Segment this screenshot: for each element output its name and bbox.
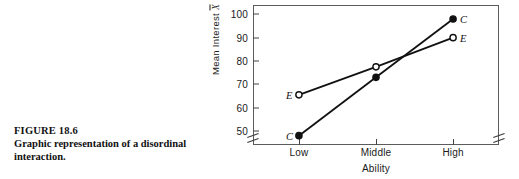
y-tick-label: 60 — [236, 102, 248, 113]
figure-number: FIGURE 18.6 — [14, 124, 204, 137]
data-point-C — [450, 16, 456, 22]
data-point-C — [373, 74, 379, 80]
figure-page: FIGURE 18.6 Graphic representation of a … — [0, 0, 519, 179]
y-axis-break-icon-right — [493, 131, 505, 145]
data-point-E — [296, 92, 302, 98]
y-tick-label: 70 — [236, 79, 248, 90]
data-point-E — [373, 64, 379, 70]
series-lines — [253, 5, 499, 145]
x-tick-label: Middle — [361, 147, 392, 158]
y-axis-break-icon — [247, 131, 259, 145]
figure-caption-text: Graphic representation of a disordinal i… — [14, 137, 204, 163]
x-tick-label: High — [442, 147, 463, 158]
figure-caption: FIGURE 18.6 Graphic representation of a … — [14, 124, 204, 163]
y-axis-title: Mean Interest X — [210, 0, 221, 95]
series-label-start-E: E — [286, 89, 292, 100]
data-point-E — [450, 35, 456, 41]
x-bar-symbol: X — [210, 4, 221, 10]
y-tick-label: 100 — [231, 9, 248, 20]
y-axis-title-text: Mean Interest — [210, 10, 221, 75]
y-tick-label: 90 — [236, 32, 248, 43]
series-label-end-C: C — [460, 14, 467, 25]
data-point-C — [296, 133, 302, 139]
plot-area: 5060708090100 LowMiddleHigh CCEE Ability — [253, 5, 499, 145]
x-axis-title: Ability — [253, 163, 499, 174]
y-tick-label: 80 — [236, 56, 248, 67]
series-label-end-E: E — [460, 32, 466, 43]
chart-figure: Mean Interest X 5060708090100 LowMiddleH… — [200, 0, 519, 179]
x-tick-label: Low — [289, 147, 308, 158]
series-label-start-C: C — [286, 130, 293, 141]
